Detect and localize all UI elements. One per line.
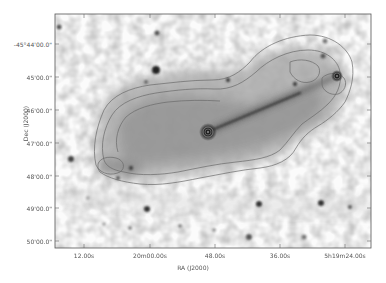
ytick-label: 49'00.0" <box>0 205 52 212</box>
core <box>199 123 217 141</box>
sky-image <box>0 0 386 283</box>
image-area <box>55 14 371 248</box>
x-axis-label: RA (J2000) <box>163 264 223 271</box>
xtick-label: 12.00s <box>54 252 114 259</box>
xtick-label: 5h19m24.00s <box>315 252 375 259</box>
ytick-label: -45°44'00.0" <box>0 41 52 48</box>
ytick-label: 45'00.0" <box>0 74 52 81</box>
ytick-label: 48'00.0" <box>0 173 52 180</box>
y-axis-label: Dec (J2000) <box>22 104 29 144</box>
hotspot <box>331 70 343 82</box>
xtick-label: 48.00s <box>185 252 245 259</box>
ytick-label: 50'00.0" <box>0 238 52 245</box>
xtick-label: 20m00.00s <box>120 252 180 259</box>
xtick-label: 36.00s <box>250 252 310 259</box>
figure: -45°44'00.0" 45'00.0" 46'00.0" 47'00.0" … <box>0 0 386 283</box>
